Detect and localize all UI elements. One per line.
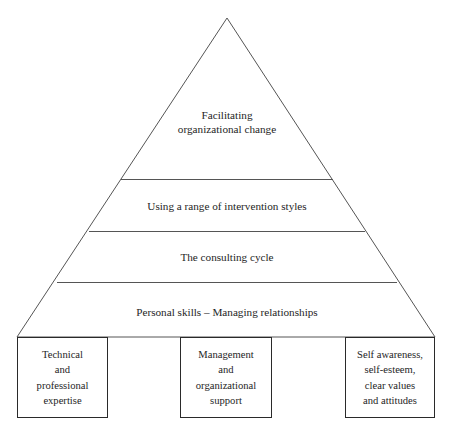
foundation-box-technical-expertise: Technical and professional expertise <box>17 337 108 418</box>
foundation-box-management-support: Management and organizational support <box>180 337 272 418</box>
pyramid-diagram: Facilitating organizational change Using… <box>0 0 454 437</box>
foundation-box-label: Technical and professional expertise <box>34 347 92 407</box>
foundation-box-self-awareness: Self awareness, self-esteem, clear value… <box>345 337 435 418</box>
foundation-box-label: Management and organizational support <box>193 347 259 407</box>
pyramid-outline-shape <box>17 18 435 337</box>
foundation-box-label: Self awareness, self-esteem, clear value… <box>354 347 426 407</box>
